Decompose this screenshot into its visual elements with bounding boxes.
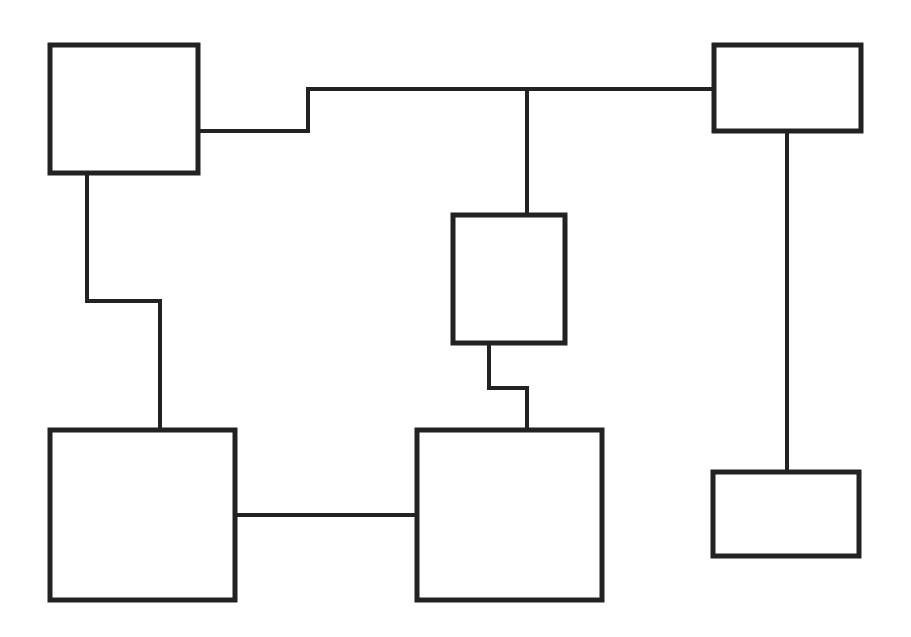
box-bottom-left xyxy=(50,430,235,600)
box-top-right xyxy=(714,45,861,131)
box-top-left xyxy=(50,45,198,173)
edge-topleft-topright xyxy=(198,89,714,131)
block-diagram xyxy=(0,0,911,637)
box-center xyxy=(453,215,565,343)
edge-center-bottomcenter xyxy=(489,343,527,430)
box-bottom-right xyxy=(713,472,859,556)
diagram-boxes xyxy=(50,45,861,600)
box-bottom-center xyxy=(417,430,602,600)
edge-topleft-bottomleft xyxy=(87,173,160,430)
